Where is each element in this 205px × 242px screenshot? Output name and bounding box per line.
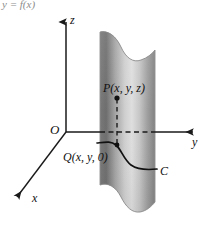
point-p-marker [114,95,119,100]
point-q-marker [115,143,120,148]
page-header-fragment: y = f(x) [1,0,35,11]
z-axis-label: z [69,13,75,27]
point-p-label: P(x, y, z) [102,81,145,95]
surface-cylinder-figure: y = f(x) [0,0,205,242]
origin-label: O [50,122,60,137]
x-axis [17,132,66,197]
y-axis-label: y [191,135,198,149]
curve-c-label: C [160,164,169,178]
cylindrical-surface [96,26,160,218]
x-axis-label: x [31,191,38,205]
figure-canvas: y = f(x) [0,0,205,242]
point-q-label: Q(x, y, 0) [63,150,108,164]
